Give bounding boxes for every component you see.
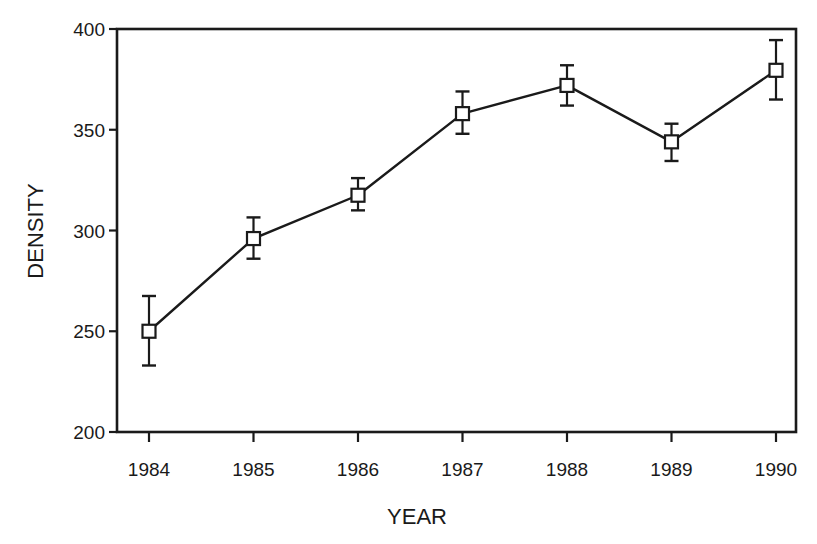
x-tick-label: 1989 — [650, 459, 692, 480]
y-tick-label: 350 — [73, 120, 105, 141]
plot-frame — [117, 29, 796, 432]
y-tick-label: 250 — [73, 321, 105, 342]
x-tick-label: 1986 — [337, 459, 379, 480]
open-square-marker — [770, 64, 783, 77]
plot-border — [117, 29, 796, 432]
x-axis: 1984198519861987198819891990 — [128, 432, 797, 480]
open-square-marker — [143, 325, 156, 338]
x-tick-label: 1990 — [755, 459, 797, 480]
error-bars — [142, 40, 783, 365]
density-by-year-chart: 200250300350400 198419851986198719881989… — [0, 0, 817, 544]
x-tick-label: 1988 — [546, 459, 588, 480]
open-square-marker — [561, 79, 574, 92]
open-square-marker — [352, 189, 365, 202]
open-square-marker — [456, 107, 469, 120]
x-axis-title: YEAR — [387, 504, 447, 529]
y-tick-label: 200 — [73, 422, 105, 443]
open-square-marker — [665, 135, 678, 148]
y-tick-label: 400 — [73, 19, 105, 40]
y-axis-title: DENSITY — [23, 183, 48, 279]
y-axis: 200250300350400 — [73, 19, 117, 443]
x-tick-label: 1987 — [441, 459, 483, 480]
open-square-marker — [247, 232, 260, 245]
y-tick-label: 300 — [73, 221, 105, 242]
x-tick-label: 1985 — [232, 459, 274, 480]
x-tick-label: 1984 — [128, 459, 171, 480]
